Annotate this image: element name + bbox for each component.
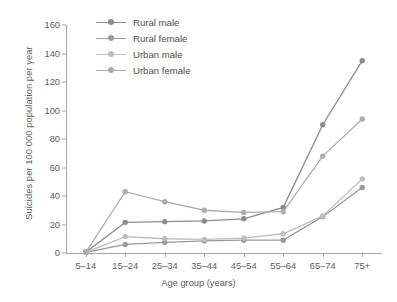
x-tick-mark — [362, 253, 363, 257]
x-tick-mark — [125, 253, 126, 257]
x-tick-label: 45–54 — [231, 261, 257, 271]
x-tick-mark — [204, 253, 205, 257]
data-point — [360, 116, 365, 121]
legend-item[interactable]: Urban male — [96, 46, 191, 62]
legend-label: Rural female — [133, 33, 187, 44]
data-point — [123, 189, 128, 194]
x-tick-label: 65–74 — [310, 261, 336, 271]
data-point — [241, 216, 246, 221]
data-point — [281, 231, 286, 236]
data-point — [360, 185, 365, 190]
x-tick-label: 15–24 — [112, 261, 138, 271]
x-tick-label: 55–64 — [270, 261, 296, 271]
chart-legend: Rural maleRural femaleUrban maleUrban fe… — [96, 14, 191, 78]
data-point — [320, 122, 325, 127]
data-point — [162, 236, 167, 241]
data-point — [202, 237, 207, 242]
data-point — [241, 235, 246, 240]
x-tick-mark — [244, 253, 245, 257]
data-point — [123, 234, 128, 239]
data-point — [360, 58, 365, 63]
legend-marker-icon — [96, 65, 126, 75]
x-axis-line — [66, 253, 382, 254]
legend-item[interactable]: Rural male — [96, 14, 191, 30]
data-point — [281, 209, 286, 214]
x-tick-label: 25–34 — [152, 261, 178, 271]
data-point — [123, 220, 128, 225]
x-tick-label: 5–14 — [75, 261, 96, 271]
series-line — [86, 119, 363, 252]
data-point — [83, 250, 88, 255]
data-point — [123, 242, 128, 247]
legend-item[interactable]: Urban female — [96, 62, 191, 78]
x-tick-mark — [283, 253, 284, 257]
x-tick-label: 35–44 — [191, 261, 217, 271]
y-axis-title: Suicides per 100 000 population per year — [24, 8, 34, 258]
legend-marker-icon — [96, 33, 126, 43]
legend-label: Urban male — [133, 49, 183, 60]
legend-marker-icon — [96, 49, 126, 59]
data-point — [360, 176, 365, 181]
legend-label: Urban female — [133, 65, 191, 76]
x-tick-mark — [323, 253, 324, 257]
data-point — [241, 210, 246, 215]
legend-label: Rural male — [133, 17, 179, 28]
data-point — [320, 213, 325, 218]
data-point — [202, 208, 207, 213]
x-axis-title: Age group (years) — [0, 278, 397, 288]
legend-marker-icon — [96, 17, 126, 27]
legend-item[interactable]: Rural female — [96, 30, 191, 46]
data-point — [281, 237, 286, 242]
data-point — [162, 219, 167, 224]
x-tick-label: 75+ — [354, 261, 370, 271]
x-tick-mark — [165, 253, 166, 257]
data-point — [320, 153, 325, 158]
data-point — [162, 199, 167, 204]
data-point — [202, 218, 207, 223]
suicide-rate-line-chart: Suicides per 100 000 population per year… — [0, 0, 397, 302]
